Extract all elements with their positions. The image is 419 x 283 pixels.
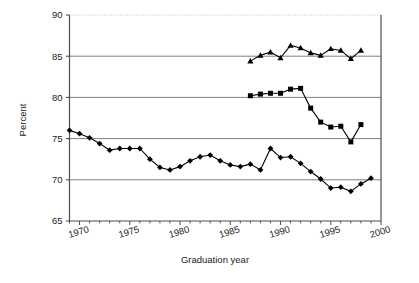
data-point-square xyxy=(338,124,343,129)
data-point-square xyxy=(308,106,313,111)
x-axis-title: Graduation year xyxy=(181,254,249,265)
data-point-square xyxy=(328,125,333,130)
data-point-square xyxy=(288,87,293,92)
data-point-square xyxy=(358,122,363,127)
chart-background xyxy=(0,0,419,283)
data-point-square xyxy=(268,91,273,96)
y-tick-label: 70 xyxy=(52,174,63,185)
data-point-square xyxy=(248,93,253,98)
data-point-square xyxy=(318,120,323,125)
line-chart: 657075808590 197019751980198519901995200… xyxy=(0,0,419,283)
y-tick-label: 85 xyxy=(52,51,63,62)
y-tick-label: 65 xyxy=(52,215,63,226)
y-axis-title: Percent xyxy=(17,103,28,136)
data-point-square xyxy=(348,139,353,144)
y-tick-label: 90 xyxy=(52,9,63,20)
y-tick-label: 75 xyxy=(52,133,63,144)
y-tick-label: 80 xyxy=(52,92,63,103)
data-point-square xyxy=(278,91,283,96)
chart-container: 657075808590 197019751980198519901995200… xyxy=(0,0,419,283)
data-point-square xyxy=(298,86,303,91)
data-point-square xyxy=(258,92,263,97)
